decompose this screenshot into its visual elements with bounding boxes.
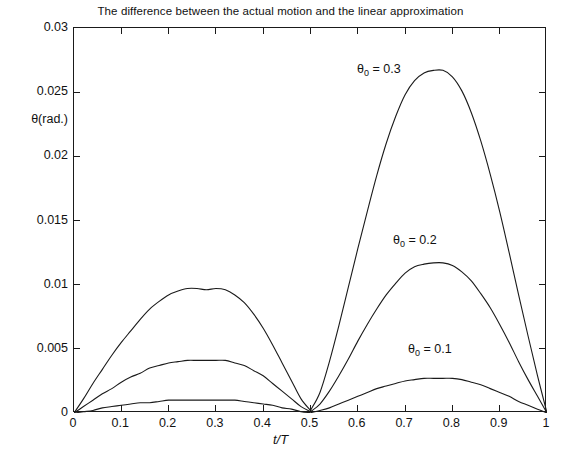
y-tick-mark (74, 284, 80, 285)
x-tick-label: 0.5 (301, 416, 318, 430)
x-tick-mark (405, 405, 406, 411)
x-tick-label: 0.2 (159, 416, 176, 430)
y-tick-mark (539, 220, 545, 221)
x-tick-label: 0 (70, 416, 77, 430)
annotation-symbol: θ (357, 62, 364, 76)
x-tick-label: 1 (543, 416, 550, 430)
x-tick-mark (263, 28, 264, 34)
y-tick-label: 0.005 (37, 341, 68, 355)
x-tick-mark (499, 28, 500, 34)
chart-title: The difference between the actual motion… (0, 5, 561, 17)
x-tick-mark (405, 28, 406, 34)
curve-theta0-0.2 (74, 360, 311, 413)
annotation-symbol: θ (393, 233, 400, 247)
x-tick-mark (310, 28, 311, 34)
x-tick-mark (357, 405, 358, 411)
x-tick-label: 0.3 (206, 416, 223, 430)
y-tick-label: 0.01 (44, 277, 68, 291)
y-tick-label: 0.03 (44, 20, 68, 34)
x-tick-mark (215, 28, 216, 34)
y-axis-label: θ(rad.) (2, 112, 68, 126)
curve-theta0-0.3 (74, 288, 311, 413)
y-axis-tick-labels: 00.0050.010.0150.020.0250.03 (0, 0, 68, 455)
x-tick-mark (452, 405, 453, 411)
y-tick-mark (74, 348, 80, 349)
annotation-value: = 0.1 (420, 342, 452, 356)
curve-paths (74, 70, 547, 413)
curve-theta0-0.1 (74, 400, 311, 413)
curve-theta0-0.2 (311, 263, 548, 413)
y-tick-mark (74, 156, 80, 157)
x-tick-mark (263, 405, 264, 411)
series-annotation: θ0 = 0.1 (408, 342, 452, 358)
x-tick-mark (357, 28, 358, 34)
y-tick-label: 0.025 (37, 84, 68, 98)
x-tick-mark (121, 28, 122, 34)
x-tick-label: 0.9 (490, 416, 507, 430)
y-tick-mark (539, 348, 545, 349)
annotation-symbol: θ (408, 342, 415, 356)
y-tick-label: 0.015 (37, 213, 68, 227)
y-tick-label: 0 (61, 405, 68, 419)
curve-theta0-0.1 (311, 378, 548, 413)
x-tick-mark (499, 405, 500, 411)
y-tick-mark (74, 220, 80, 221)
x-tick-label: 0.4 (253, 416, 270, 430)
y-tick-label: 0.02 (44, 148, 68, 162)
x-tick-mark (121, 405, 122, 411)
x-tick-mark (452, 28, 453, 34)
y-tick-mark (74, 92, 80, 93)
x-tick-mark (310, 405, 311, 411)
plot-area (73, 27, 546, 412)
x-axis-label: t/T (0, 432, 561, 447)
y-tick-mark (539, 156, 545, 157)
y-tick-mark (539, 284, 545, 285)
x-tick-mark (215, 405, 216, 411)
chart-figure: The difference between the actual motion… (0, 0, 561, 455)
x-tick-label: 0.7 (395, 416, 412, 430)
curves-svg (74, 28, 547, 413)
series-annotation: θ0 = 0.3 (357, 62, 401, 78)
y-tick-mark (539, 92, 545, 93)
x-tick-label: 0.1 (112, 416, 129, 430)
annotation-value: = 0.2 (405, 233, 437, 247)
annotation-value: = 0.3 (369, 62, 401, 76)
x-tick-mark (168, 405, 169, 411)
x-tick-mark (168, 28, 169, 34)
x-tick-label: 0.8 (443, 416, 460, 430)
series-annotation: θ0 = 0.2 (393, 233, 437, 249)
x-tick-label: 0.6 (348, 416, 365, 430)
